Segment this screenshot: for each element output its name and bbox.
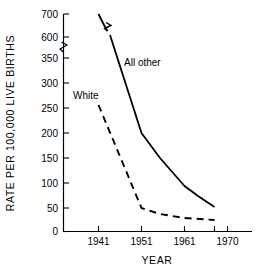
y-tick-label-350: 350 (41, 53, 58, 64)
y-tick-label-200: 200 (41, 128, 58, 139)
series-white-line (99, 105, 215, 220)
y-tick-label-50: 50 (47, 203, 59, 214)
series-all-other (99, 14, 215, 207)
y-tick-label-100: 100 (41, 178, 58, 189)
x-tick-marks (99, 226, 228, 232)
x-tick-labels: 1941 1951 1961 1970 (87, 236, 239, 247)
y-tick-label-0: 0 (52, 226, 58, 237)
x-tick-label-1951: 1951 (130, 236, 153, 247)
chart-container: 700 600 350 300 250 200 150 100 50 0 194… (0, 0, 262, 277)
x-tick-label-1961: 1961 (173, 236, 196, 247)
x-tick-label-1941: 1941 (87, 236, 110, 247)
series-label-white: White (73, 90, 99, 101)
line-chart: 700 600 350 300 250 200 150 100 50 0 194… (0, 0, 262, 277)
x-axis-title: YEAR (142, 254, 173, 266)
y-tick-label-700: 700 (41, 9, 58, 20)
y-tick-label-600: 600 (41, 32, 58, 43)
y-tick-label-150: 150 (41, 153, 58, 164)
series-white (99, 105, 215, 220)
y-tick-label-250: 250 (41, 103, 58, 114)
y-tick-label-300: 300 (41, 78, 58, 89)
y-axis-title: RATE PER 100,000 LIVE BIRTHS (4, 35, 16, 211)
series-label-all-other: All other (124, 57, 161, 68)
x-tick-label-1970: 1970 (216, 236, 239, 247)
axis-lines (63, 14, 252, 232)
y-tick-labels: 700 600 350 300 250 200 150 100 50 0 (41, 9, 58, 237)
